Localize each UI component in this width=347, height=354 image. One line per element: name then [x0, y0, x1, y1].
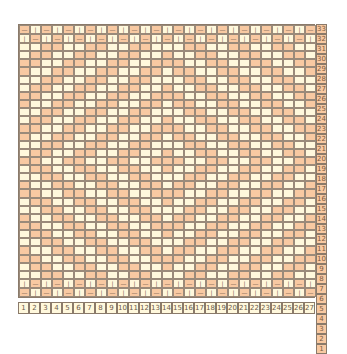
- grid-cell: [19, 222, 30, 230]
- grid-cell: |: [30, 25, 41, 34]
- grid-cell: [63, 238, 74, 246]
- grid-cell: [173, 100, 184, 108]
- grid-cell: [195, 246, 206, 254]
- grid-cell: [140, 271, 151, 279]
- grid-cell: [30, 173, 41, 181]
- grid-cell: [74, 59, 85, 67]
- row-number: 20: [316, 154, 327, 164]
- grid-cell: [162, 181, 173, 189]
- grid-cell: [261, 149, 272, 157]
- grid-cell: [52, 189, 63, 197]
- grid-cell: [294, 116, 305, 124]
- grid-cell: |: [52, 25, 63, 34]
- column-number: 19: [216, 302, 227, 314]
- grid-cell: [74, 116, 85, 124]
- grid-cell: [118, 165, 129, 173]
- grid-cell: [305, 43, 316, 51]
- grid-cell: —: [52, 34, 63, 43]
- grid-cell: [283, 108, 294, 116]
- column-number: 7: [84, 302, 95, 314]
- grid-cell: [41, 214, 52, 222]
- grid-cell: |: [19, 34, 30, 43]
- grid-cell: [52, 238, 63, 246]
- grid-cell: [41, 165, 52, 173]
- grid-cell: [206, 67, 217, 75]
- grid-cell: [195, 149, 206, 157]
- grid-cell: [206, 141, 217, 149]
- grid-cell: [19, 255, 30, 263]
- grid-cell: [261, 67, 272, 75]
- grid-cell: [107, 149, 118, 157]
- grid-cell: [85, 246, 96, 254]
- grid-cell: [217, 165, 228, 173]
- grid-cell: [74, 67, 85, 75]
- grid-cell: [305, 173, 316, 181]
- grid-cell: [250, 230, 261, 238]
- grid-cell: [239, 222, 250, 230]
- grid-cell: |: [52, 288, 63, 297]
- grid-cell: [107, 157, 118, 165]
- grid-cell: [107, 92, 118, 100]
- grid-cell: [283, 100, 294, 108]
- grid-cell: [30, 76, 41, 84]
- column-number: 25: [282, 302, 293, 314]
- grid-cell: [96, 124, 107, 132]
- grid-cell: [261, 206, 272, 214]
- grid-cell: [195, 100, 206, 108]
- grid-cell: [140, 238, 151, 246]
- grid-cell: [30, 246, 41, 254]
- grid-cell: [107, 76, 118, 84]
- grid-cell: [85, 149, 96, 157]
- grid-cell: [294, 238, 305, 246]
- grid-cell: [173, 133, 184, 141]
- grid-cell: [30, 141, 41, 149]
- grid-cell: [85, 206, 96, 214]
- grid-cell: [184, 181, 195, 189]
- grid-cell: [19, 230, 30, 238]
- grid-cell: [74, 51, 85, 59]
- grid-cell: [63, 189, 74, 197]
- grid-cell: [96, 222, 107, 230]
- grid-cell: [30, 116, 41, 124]
- grid-cell: [305, 141, 316, 149]
- column-number: 13: [150, 302, 161, 314]
- grid-cell: |: [74, 288, 85, 297]
- grid-cell: [173, 157, 184, 165]
- grid-cell: |: [294, 288, 305, 297]
- column-number: 1: [18, 302, 29, 314]
- grid-cell: [41, 157, 52, 165]
- grid-cell: [118, 67, 129, 75]
- grid-cell: [30, 238, 41, 246]
- grid-cell: [272, 214, 283, 222]
- row-number: 12: [316, 234, 327, 244]
- grid-cell: [63, 59, 74, 67]
- grid-cell: [217, 173, 228, 181]
- grid-cell: [129, 181, 140, 189]
- grid-cell: [195, 198, 206, 206]
- grid-cell: [151, 84, 162, 92]
- grid-cell: [63, 222, 74, 230]
- grid-cell: [217, 133, 228, 141]
- grid-cell: —: [228, 279, 239, 288]
- grid-cell: [261, 116, 272, 124]
- grid-cell: —: [261, 288, 272, 297]
- grid-cell: [107, 59, 118, 67]
- grid-cell: [96, 108, 107, 116]
- grid-cell: [283, 43, 294, 51]
- grid-cell: [30, 108, 41, 116]
- grid-cell: [140, 51, 151, 59]
- grid-cell: [63, 255, 74, 263]
- grid-cell: |: [261, 34, 272, 43]
- grid-cell: [140, 255, 151, 263]
- grid-cell: [52, 76, 63, 84]
- row-number: 14: [316, 214, 327, 224]
- grid-cell: |: [140, 25, 151, 34]
- grid-cell: [129, 173, 140, 181]
- grid-cell: [206, 108, 217, 116]
- grid-cell: [272, 76, 283, 84]
- grid-cell: [239, 116, 250, 124]
- grid-cell: [162, 59, 173, 67]
- grid-cell: [129, 230, 140, 238]
- grid-cell: [151, 206, 162, 214]
- grid-cell: [52, 92, 63, 100]
